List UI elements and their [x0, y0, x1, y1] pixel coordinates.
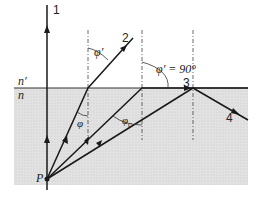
point-source-label: P [36, 172, 43, 184]
lower-medium [14, 88, 248, 185]
ray-1-label: 1 [53, 4, 60, 16]
point-source-dot [45, 177, 50, 182]
angle-phi-label: φ [77, 118, 83, 129]
upper-medium-label: n′ [18, 75, 27, 87]
angle-phi-c-label: φc [122, 115, 132, 129]
ray-3-label: 3 [183, 77, 190, 89]
ray-2-label: 2 [122, 32, 129, 44]
lower-medium-label: n [18, 89, 24, 101]
refraction-diagram [0, 0, 262, 197]
angle-phi-prime-90-label: φ′ = 90° [156, 63, 196, 75]
angle-phi-prime-label: φ′ [94, 46, 103, 58]
ray-4-label: 4 [226, 112, 233, 124]
